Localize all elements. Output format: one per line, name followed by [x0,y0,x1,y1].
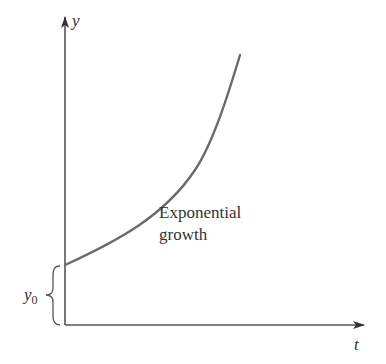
initial-value-label: y0 [22,285,38,307]
exponential-growth-chart: y t Exponential growth y0 [0,0,386,364]
x-axis-label: t [354,335,360,354]
initial-value-brace [46,266,60,325]
curve-annotation-line1: Exponential [159,203,241,222]
curve-annotation-line2: growth [159,225,208,244]
exponential-curve [65,55,240,265]
y-axis-label: y [70,11,80,30]
